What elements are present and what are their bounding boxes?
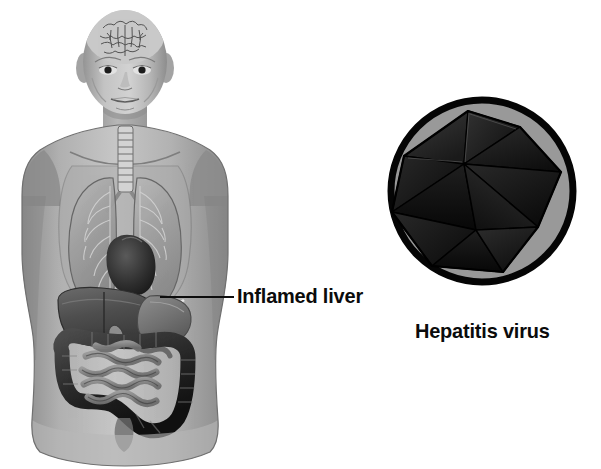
- liver-leader-line: [160, 296, 234, 298]
- virus-illustration: [370, 80, 595, 360]
- liver-label: Inflamed liver: [237, 285, 363, 306]
- virus-caption: Hepatitis virus: [415, 320, 550, 341]
- body-illustration: [0, 0, 250, 469]
- body-svg: [0, 0, 250, 469]
- virus-svg: [370, 80, 595, 310]
- eye-left-pupil: [104, 66, 111, 73]
- eye-right-pupil: [138, 66, 145, 73]
- illustration-canvas: Inflamed liver: [0, 0, 601, 469]
